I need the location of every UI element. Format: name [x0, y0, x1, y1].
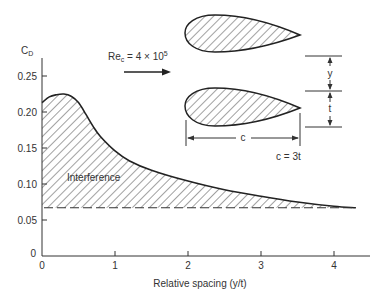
x-ticks: 01234: [39, 251, 337, 271]
spacing-dimension: [305, 56, 342, 127]
y-tick-label: 0.10: [18, 179, 38, 190]
flow-arrow-icon: [124, 69, 171, 76]
x-tick-label: 4: [331, 260, 337, 271]
y-tick-label: 0.25: [18, 71, 38, 82]
x-tick-label: 2: [185, 260, 191, 271]
y-tick-label: 0.05: [18, 215, 38, 226]
spacing-y-label: y: [328, 68, 333, 79]
airfoil-bottom: [185, 88, 300, 126]
interference-label: Interference: [67, 172, 121, 183]
y-axis-title: CD: [21, 45, 33, 57]
x-tick-label: 3: [258, 260, 264, 271]
y-tick-label: 0: [30, 248, 36, 259]
y-tick-label: 0.15: [18, 143, 38, 154]
chart: 00.050.100.150.200.25 01234 CD Relative …: [0, 0, 381, 300]
airfoil-top: [185, 15, 300, 52]
chord-relation: c = 3t: [276, 151, 301, 162]
chord-label: c: [241, 132, 246, 143]
thickness-t-label: t: [329, 103, 332, 114]
reynolds-label: Rec = 4 × 105: [108, 50, 168, 63]
x-axis-title: Relative spacing (y/t): [153, 278, 246, 289]
y-tick-label: 0.20: [18, 107, 38, 118]
x-tick-label: 0: [39, 260, 45, 271]
x-tick-label: 1: [112, 260, 118, 271]
